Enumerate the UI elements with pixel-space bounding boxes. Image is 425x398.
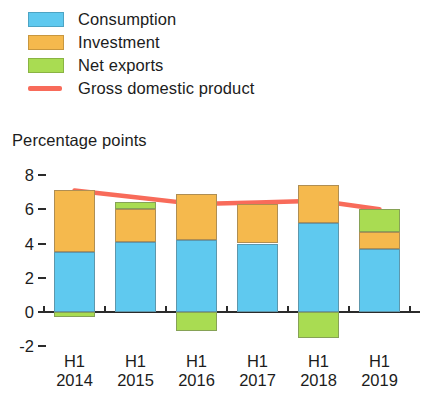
x-axis-tick-label: H12014 (41, 352, 109, 390)
bar-segment (115, 242, 156, 312)
y-axis-tick-label: 2 (6, 270, 34, 287)
x-axis-label-year: 2014 (41, 371, 109, 390)
bar-segment (176, 240, 217, 312)
y-axis-tick-label: 0 (6, 304, 34, 321)
bar-segment (298, 312, 339, 338)
y-axis-tick-mark (38, 208, 46, 210)
x-axis-label-period: H1 (41, 352, 109, 371)
y-axis-tick-label: 8 (6, 167, 34, 184)
bar-segment (54, 252, 95, 312)
y-axis-tick-mark (38, 345, 46, 347)
bar-segment (54, 190, 95, 252)
x-axis-label-year: 2016 (163, 371, 231, 390)
x-axis-tick-mark (165, 306, 167, 312)
x-axis-tick-mark (287, 306, 289, 312)
bar-segment (298, 223, 339, 312)
x-axis-tick-label: H12016 (163, 352, 231, 390)
bar-segment (115, 202, 156, 209)
bar-segment (115, 209, 156, 242)
x-axis-tick-mark (348, 306, 350, 312)
x-axis-tick-label: H12018 (285, 352, 353, 390)
x-axis-label-year: 2019 (346, 371, 414, 390)
x-axis-label-year: 2017 (224, 371, 292, 390)
x-axis-tick-mark (104, 306, 106, 312)
bar-segment (176, 194, 217, 240)
x-axis-label-year: 2018 (285, 371, 353, 390)
x-axis-label-period: H1 (163, 352, 231, 371)
bar-segment (359, 232, 400, 249)
y-axis-tick-mark (38, 174, 46, 176)
x-axis-label-period: H1 (224, 352, 292, 371)
x-axis-label-period: H1 (102, 352, 170, 371)
y-axis-tick-label: 4 (6, 235, 34, 252)
bar-segment (176, 312, 217, 331)
x-axis-label-period: H1 (285, 352, 353, 371)
x-axis-tick-mark (409, 306, 411, 312)
x-axis-tick-mark (43, 306, 45, 312)
x-axis-tick-label: H12017 (224, 352, 292, 390)
x-axis-tick-label: H12015 (102, 352, 170, 390)
bar-segment (359, 209, 400, 231)
bar-segment (54, 312, 95, 317)
chart-plot-area: 86420-2H12014H12015H12016H12017H12018H12… (0, 0, 425, 398)
y-axis-tick-mark (38, 243, 46, 245)
bar-segment (237, 204, 278, 243)
bar-segment (298, 185, 339, 223)
y-axis-tick-mark (38, 277, 46, 279)
x-axis-label-year: 2015 (102, 371, 170, 390)
y-axis-tick-label: 6 (6, 201, 34, 218)
y-axis-tick-label: -2 (6, 338, 34, 355)
bar-segment (237, 244, 278, 313)
x-axis-label-period: H1 (346, 352, 414, 371)
x-axis-tick-label: H12019 (346, 352, 414, 390)
bar-segment (359, 249, 400, 312)
x-axis-tick-mark (226, 306, 228, 312)
